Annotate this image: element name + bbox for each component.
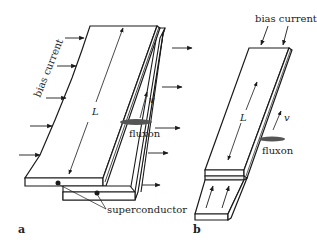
superconductor-label: superconductor [107,204,187,215]
velocity-label: v [149,94,155,105]
josephson-junction-diagram: L v fluxon bias current superconduct [0,0,317,246]
fluxon-shape-b [259,137,285,142]
bias-current-label-a: bias current [32,37,65,98]
fluxon-label: fluxon [129,128,161,139]
velocity-label-b: v [284,112,290,123]
fluxon-shape [120,119,152,125]
panel-label-a: a [18,223,25,236]
length-label-b: L [239,112,247,123]
panel-a: L v fluxon bias current superconduct [18,26,192,236]
contact-dot-lower [95,191,100,196]
diagram-canvas: L v fluxon bias current superconduct [0,0,317,246]
bias-current-label-b: bias current [255,13,317,24]
bias-current-arrows-b-top [261,26,288,45]
panel-b: bias current L v fluxon b [193,13,317,236]
length-label: L [91,106,99,117]
panel-label-b: b [193,223,201,236]
fluxon-label-b: fluxon [262,145,294,156]
velocity-arrow-b [273,111,281,130]
junction-strip-b [195,48,292,220]
